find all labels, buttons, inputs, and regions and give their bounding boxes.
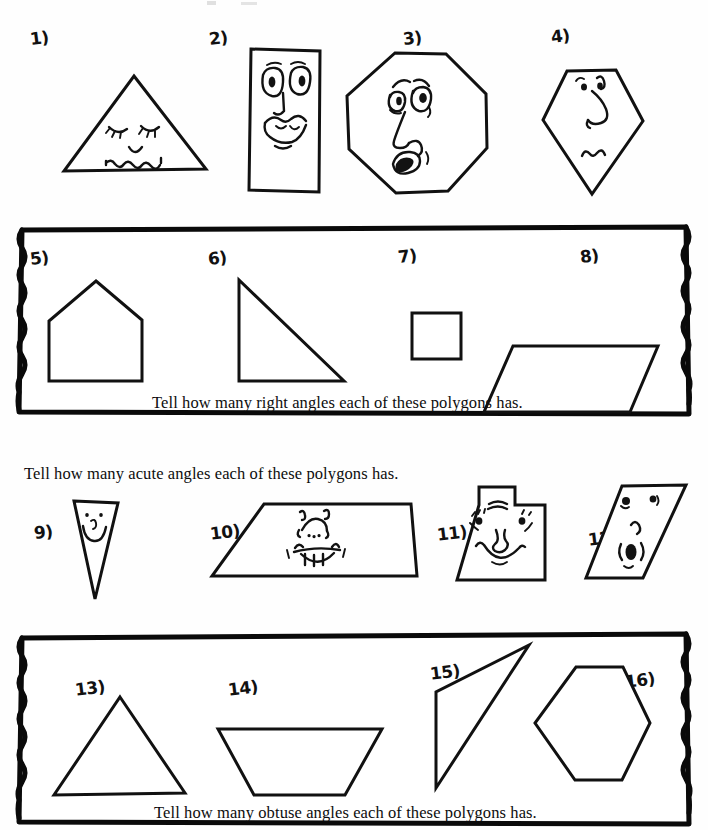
instruction-acute-angles: Tell how many acute angles each of these… bbox=[24, 464, 398, 484]
page-top-scan-artifact bbox=[195, 0, 335, 7]
shape-4-kite-pentagon bbox=[540, 50, 670, 200]
polygon-right-triangle bbox=[239, 280, 344, 381]
polygon-hexagon bbox=[535, 667, 650, 780]
problem-number-7: 7) bbox=[397, 245, 418, 267]
shape-6-right-triangle bbox=[234, 278, 354, 388]
shape-14-inverted-trapezoid bbox=[212, 723, 387, 803]
shape-9-narrow-inverted-triangle bbox=[62, 496, 142, 606]
worksheet-page: 1) 2) bbox=[0, 0, 708, 830]
instruction-right-angles: Tell how many right angles each of these… bbox=[152, 393, 523, 413]
shape-11-tabbed-square bbox=[452, 484, 562, 590]
problem-number-4: 4) bbox=[550, 25, 571, 47]
problem-number-8: 8) bbox=[579, 245, 600, 267]
problem-number-3: 3) bbox=[402, 27, 423, 49]
shape-5-house-pentagon bbox=[44, 278, 154, 388]
polygon-acute-triangle bbox=[54, 697, 185, 795]
shape-7-square bbox=[408, 310, 468, 370]
shape-1-triangle bbox=[58, 58, 218, 188]
polygon-slanted-parallelogram bbox=[586, 485, 686, 578]
polygon-triangle bbox=[64, 76, 206, 171]
problem-number-6: 6) bbox=[207, 247, 228, 269]
shape-13-acute-triangle bbox=[48, 690, 193, 800]
polygon-kite-pentagon bbox=[543, 70, 643, 194]
shape-3-octagon bbox=[343, 50, 493, 200]
problem-number-14: 14) bbox=[227, 676, 259, 699]
shape-2-vertical-rectangle bbox=[243, 47, 333, 197]
problem-number-1: 1) bbox=[29, 27, 50, 49]
shape-12-slanted-parallelogram bbox=[576, 482, 696, 590]
problem-number-2: 2) bbox=[208, 27, 229, 49]
shape-15-thin-obtuse-triangle bbox=[424, 640, 544, 795]
polygon-thin-obtuse-triangle bbox=[436, 645, 529, 788]
polygon-octagon bbox=[347, 53, 487, 193]
problem-number-9: 9) bbox=[33, 521, 54, 543]
polygon-narrow-inverted-triangle bbox=[74, 501, 118, 599]
polygon-square bbox=[412, 313, 461, 359]
polygon-inverted-trapezoid bbox=[218, 729, 382, 795]
shape-16-hexagon bbox=[530, 662, 660, 787]
instruction-obtuse-angles: Tell how many obtuse angles each of thes… bbox=[154, 803, 537, 823]
problem-number-5: 5) bbox=[29, 247, 50, 269]
polygon-house-pentagon bbox=[49, 281, 142, 381]
shape-10-trapezoid bbox=[202, 492, 422, 588]
